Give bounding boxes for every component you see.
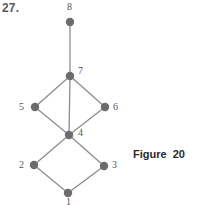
node-6 — [101, 103, 109, 111]
edge-4-5 — [35, 107, 69, 135]
edge-5-7 — [35, 76, 70, 107]
edge-6-7 — [70, 76, 105, 107]
node-3 — [100, 162, 108, 170]
edge-4-7 — [69, 76, 70, 135]
node-8 — [66, 18, 74, 26]
node-5 — [31, 103, 39, 111]
edge-3-4 — [69, 135, 104, 166]
node-4 — [65, 131, 73, 139]
node-label-7: 7 — [78, 65, 83, 76]
node-label-3: 3 — [112, 159, 117, 170]
node-2 — [30, 161, 38, 169]
graph-edges — [34, 22, 105, 193]
edge-1-3 — [68, 166, 104, 193]
node-label-2: 2 — [19, 159, 24, 170]
node-7 — [66, 72, 74, 80]
node-label-6: 6 — [113, 101, 118, 112]
edge-2-4 — [34, 135, 69, 165]
edge-1-2 — [34, 165, 68, 193]
node-label-1: 1 — [66, 196, 71, 205]
node-label-4: 4 — [78, 127, 83, 138]
hasse-diagram: 12345678 — [0, 0, 203, 205]
figure-caption: Figure 20 — [133, 148, 185, 160]
node-label-8: 8 — [67, 1, 72, 12]
node-label-5: 5 — [19, 101, 24, 112]
edge-4-6 — [69, 107, 105, 135]
